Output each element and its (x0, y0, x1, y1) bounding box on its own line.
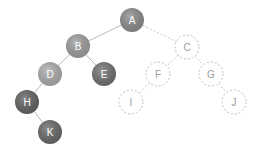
edge-c-g (195, 56, 203, 65)
edge-b-d (58, 54, 69, 65)
tree-node-f: F (146, 62, 170, 86)
edge-a-b (89, 25, 121, 41)
node-label: G (207, 69, 215, 80)
node-label: J (232, 97, 237, 108)
tree-node-e: E (92, 62, 116, 86)
tree-node-h: H (15, 90, 39, 114)
tree-node-k: K (38, 120, 62, 144)
edge-f-i (139, 83, 149, 94)
node-label: C (183, 42, 190, 53)
node-label: B (75, 41, 82, 52)
binary-tree-diagram: ABCDEFGHIJK (0, 0, 262, 156)
edge-b-e (86, 55, 96, 65)
tree-node-c: C (175, 35, 199, 59)
tree-nodes: ABCDEFGHIJK (15, 8, 246, 144)
tree-node-b: B (66, 34, 90, 58)
edge-h-k (34, 112, 42, 123)
edge-a-c (143, 25, 176, 41)
edge-c-f (167, 55, 178, 66)
edge-d-h (35, 83, 43, 92)
edge-g-j (219, 83, 227, 92)
node-label: A (129, 15, 136, 26)
node-label: I (130, 97, 133, 108)
tree-node-a: A (120, 8, 144, 32)
tree-node-j: J (222, 90, 246, 114)
node-label: H (23, 97, 30, 108)
tree-node-g: G (199, 62, 223, 86)
node-label: F (155, 69, 161, 80)
node-label: D (46, 69, 53, 80)
node-label: E (101, 69, 108, 80)
tree-node-d: D (38, 62, 62, 86)
node-label: K (47, 127, 54, 138)
tree-node-i: I (119, 90, 143, 114)
